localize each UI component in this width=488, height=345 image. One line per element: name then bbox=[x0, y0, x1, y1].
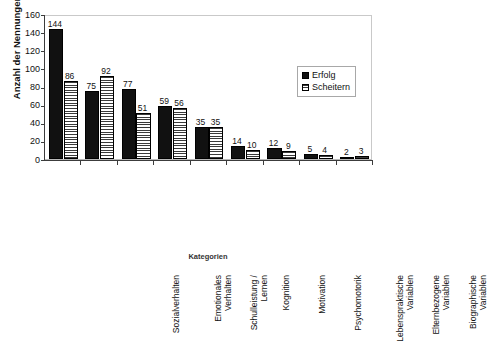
bar-value-label: 144 bbox=[43, 20, 67, 29]
bar-erfolg bbox=[49, 29, 63, 160]
y-tick-label: 60 bbox=[0, 101, 40, 110]
x-category-label: Motivation bbox=[318, 275, 328, 345]
bar-scheitern bbox=[246, 150, 260, 159]
bar-value-label: 3 bbox=[349, 147, 373, 156]
y-tick-label: 80 bbox=[0, 83, 40, 92]
bar-value-label: 75 bbox=[79, 82, 103, 91]
bar-value-label: 9 bbox=[276, 142, 300, 151]
bar-scheitern bbox=[64, 81, 78, 159]
x-category-label: Kognition bbox=[282, 275, 292, 345]
legend-label-erfolg: Erfolg bbox=[312, 70, 336, 80]
x-category-label: Psychomotorik bbox=[354, 275, 364, 345]
legend-item-scheitern: Scheitern bbox=[302, 81, 350, 93]
bar-value-label: 77 bbox=[116, 80, 140, 89]
x-tick-mark bbox=[117, 161, 118, 165]
chart-title bbox=[0, 0, 385, 1]
x-tick-mark bbox=[299, 161, 300, 165]
bar-scheitern bbox=[136, 113, 150, 159]
x-category-label: Schulleistung / Lernen bbox=[250, 275, 269, 345]
legend-item-erfolg: Erfolg bbox=[302, 69, 350, 81]
x-tick-mark bbox=[263, 161, 264, 165]
x-category-label: Biographische Variablen bbox=[469, 275, 488, 345]
legend-swatch-erfolg bbox=[302, 72, 309, 79]
x-tick-mark bbox=[226, 161, 227, 165]
bar-value-label: 4 bbox=[313, 146, 337, 155]
y-tick-label: 100 bbox=[0, 65, 40, 74]
bar-scheitern bbox=[209, 127, 223, 159]
bar-erfolg bbox=[85, 91, 99, 159]
x-category-label: Elternbezogene Variablen bbox=[432, 275, 451, 345]
x-tick-mark bbox=[80, 161, 81, 165]
bar-value-label: 35 bbox=[203, 118, 227, 127]
chart-legend: Erfolg Scheitern bbox=[297, 66, 356, 97]
bar-value-label: 56 bbox=[167, 99, 191, 108]
bar-scheitern bbox=[319, 155, 333, 159]
x-tick-mark bbox=[153, 161, 154, 165]
x-category-label: Emotionales Verhalten bbox=[214, 275, 233, 345]
y-tick-label: 120 bbox=[0, 47, 40, 56]
x-category-label: Lebenspraktische Variablen bbox=[396, 275, 415, 345]
x-category-label: Sozialverhalten bbox=[172, 275, 182, 345]
bar-scheitern bbox=[173, 108, 187, 159]
bar-scheitern bbox=[282, 151, 296, 159]
bar-erfolg bbox=[122, 89, 136, 159]
bar-value-label: 51 bbox=[130, 104, 154, 113]
x-axis-title: Kategorien bbox=[44, 252, 372, 261]
bar-erfolg bbox=[158, 106, 172, 159]
x-tick-mark bbox=[190, 161, 191, 165]
x-tick-mark bbox=[336, 161, 337, 165]
bar-value-label: 10 bbox=[240, 141, 264, 150]
x-tick-mark bbox=[372, 161, 373, 165]
bar-erfolg bbox=[195, 127, 209, 159]
bar-value-label: 86 bbox=[58, 72, 82, 81]
bar-value-label: 92 bbox=[94, 67, 118, 76]
y-tick-label: 0 bbox=[0, 156, 40, 165]
x-axis-line bbox=[44, 160, 373, 161]
y-tick-label: 20 bbox=[0, 137, 40, 146]
bar-erfolg bbox=[340, 157, 354, 159]
y-tick-label: 160 bbox=[0, 11, 40, 20]
legend-swatch-scheitern bbox=[302, 84, 309, 91]
legend-label-scheitern: Scheitern bbox=[312, 82, 350, 92]
y-tick-label: 140 bbox=[0, 29, 40, 38]
y-tick-label: 40 bbox=[0, 119, 40, 128]
